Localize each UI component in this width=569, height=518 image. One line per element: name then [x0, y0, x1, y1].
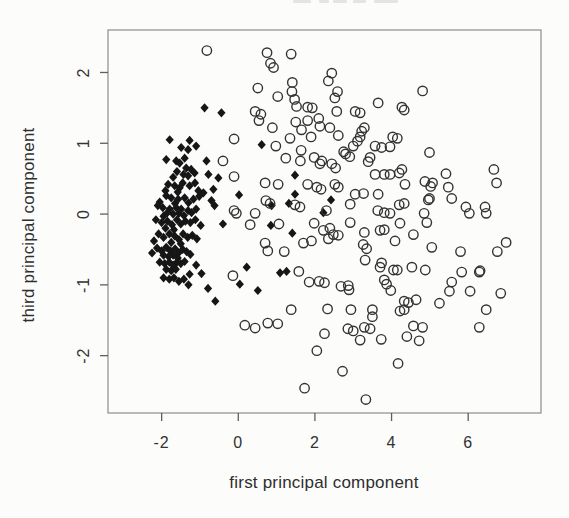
- data-point-open-circle: [373, 190, 382, 199]
- data-point-open-circle: [245, 220, 254, 229]
- data-point-open-circle: [482, 305, 491, 314]
- data-point-open-circle: [425, 148, 434, 157]
- data-point-filled-diamond: [236, 280, 244, 289]
- data-point-open-circle: [409, 230, 418, 239]
- data-point-open-circle: [447, 277, 456, 286]
- data-point-filled-diamond: [254, 286, 262, 295]
- data-point-open-circle: [492, 178, 501, 187]
- data-point-open-circle: [402, 332, 411, 341]
- data-point-open-circle: [323, 304, 332, 313]
- data-point-open-circle: [304, 277, 313, 286]
- data-point-open-circle: [232, 209, 241, 218]
- data-point-open-circle: [370, 170, 379, 179]
- data-point-open-circle: [465, 287, 474, 296]
- data-point-open-circle: [286, 305, 295, 314]
- data-point-open-circle: [370, 141, 379, 150]
- data-point-open-circle: [260, 178, 269, 187]
- data-point-open-circle: [250, 323, 259, 332]
- data-point-filled-diamond: [288, 229, 296, 238]
- data-point-open-circle: [274, 219, 283, 228]
- data-point-open-circle: [202, 46, 211, 55]
- data-point-open-circle: [397, 102, 406, 111]
- data-point-filled-diamond: [219, 219, 227, 228]
- data-point-open-circle: [421, 265, 430, 274]
- data-point-filled-diamond: [276, 268, 284, 277]
- data-point-filled-diamond: [285, 199, 293, 208]
- data-point-open-circle: [414, 336, 423, 345]
- data-point-filled-diamond: [327, 195, 335, 204]
- data-point-open-circle: [418, 86, 427, 95]
- y-axis-tick-label: -2: [75, 348, 92, 364]
- data-point-filled-diamond: [186, 136, 194, 145]
- y-axis-title: third principal component: [19, 128, 39, 323]
- data-point-open-circle: [447, 194, 456, 203]
- data-point-open-circle: [377, 335, 386, 344]
- data-point-open-circle: [303, 116, 312, 125]
- x-axis-tick-label: 6: [463, 434, 473, 451]
- data-point-open-circle: [300, 384, 309, 393]
- data-point-open-circle: [256, 110, 265, 119]
- data-point-open-circle: [445, 287, 454, 296]
- data-point-open-circle: [294, 267, 303, 276]
- data-point-filled-diamond: [209, 185, 217, 194]
- data-point-filled-diamond: [184, 145, 192, 154]
- data-point-open-circle: [418, 323, 427, 332]
- data-point-open-circle: [332, 107, 341, 116]
- x-axis-tick-label: 2: [310, 434, 320, 451]
- data-point-open-circle: [345, 218, 354, 227]
- data-point-open-circle: [296, 156, 305, 165]
- data-point-open-circle: [303, 180, 312, 189]
- data-point-open-circle: [297, 125, 306, 134]
- data-point-open-circle: [400, 105, 409, 114]
- data-point-open-circle: [444, 182, 453, 191]
- data-point-filled-diamond: [282, 267, 290, 276]
- data-point-open-circle: [250, 209, 259, 218]
- data-point-open-circle: [288, 78, 297, 87]
- data-point-open-circle: [422, 218, 431, 227]
- data-point-open-circle: [338, 367, 347, 376]
- data-point-open-circle: [346, 305, 355, 314]
- data-point-open-circle: [312, 346, 321, 355]
- data-point-filled-diamond: [211, 297, 219, 306]
- x-axis-tick-label: -2: [154, 434, 170, 451]
- data-point-open-circle: [240, 321, 249, 330]
- data-point-open-circle: [253, 83, 262, 92]
- data-point-open-circle: [218, 156, 227, 165]
- data-point-open-circle: [254, 116, 263, 125]
- data-point-filled-diamond: [204, 284, 212, 293]
- data-point-filled-diamond: [291, 190, 299, 199]
- data-point-open-circle: [273, 92, 282, 101]
- scanned-figure-page: -20246-2-1012 first principal component …: [0, 0, 569, 518]
- data-point-open-circle: [407, 262, 416, 271]
- data-point-open-circle: [320, 329, 329, 338]
- data-point-open-circle: [365, 324, 374, 333]
- y-axis-tick-label: 1: [75, 138, 92, 148]
- data-point-open-circle: [334, 131, 343, 140]
- data-point-open-circle: [482, 209, 491, 218]
- data-point-open-circle: [325, 123, 334, 132]
- data-point-open-circle: [315, 159, 324, 168]
- data-point-open-circle: [393, 359, 402, 368]
- data-point-open-circle: [306, 132, 315, 141]
- data-point-open-circle: [475, 323, 484, 332]
- data-point-filled-diamond: [214, 173, 222, 182]
- data-point-open-circle: [457, 267, 466, 276]
- data-point-open-circle: [489, 165, 498, 174]
- data-point-open-circle: [273, 180, 282, 189]
- data-point-open-circle: [373, 98, 382, 107]
- data-point-open-circle: [501, 238, 510, 247]
- data-point-filled-diamond: [204, 170, 212, 179]
- data-point-open-circle: [456, 247, 465, 256]
- y-axis-tick-label: 0: [75, 209, 92, 219]
- data-point-filled-diamond: [217, 108, 225, 117]
- data-point-open-circle: [480, 202, 489, 211]
- data-point-filled-diamond: [192, 260, 200, 269]
- data-point-filled-diamond: [177, 143, 185, 152]
- data-point-open-circle: [263, 318, 272, 327]
- data-point-open-circle: [395, 219, 404, 228]
- data-point-filled-diamond: [159, 273, 167, 282]
- data-point-filled-diamond: [166, 135, 174, 144]
- data-point-open-circle: [280, 247, 289, 256]
- data-point-filled-diamond: [192, 142, 200, 151]
- data-point-filled-diamond: [162, 155, 170, 164]
